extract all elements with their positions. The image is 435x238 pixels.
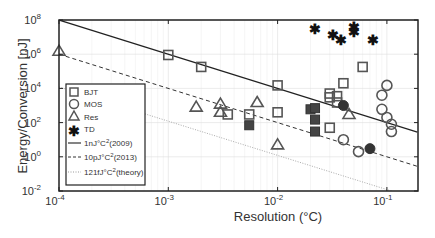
bjt-point bbox=[311, 127, 320, 136]
bjt-point bbox=[245, 110, 254, 119]
x-tick-label: 10-3 bbox=[155, 193, 175, 207]
x-tick-label: 10-2 bbox=[264, 193, 284, 207]
legend-mos: MOS bbox=[84, 100, 102, 109]
bjt-point bbox=[311, 104, 320, 113]
legend-bjt: BJT bbox=[84, 88, 98, 97]
mos-point bbox=[338, 101, 348, 111]
td-point: ✱ bbox=[309, 21, 321, 37]
y-axis-label: Energy/Conversion [nJ] bbox=[15, 38, 30, 173]
bjt-point bbox=[245, 121, 254, 130]
td-point: ✱ bbox=[367, 32, 379, 48]
legend-td: TD bbox=[84, 125, 95, 134]
legend: BJT MOS Res ✱ TD 1nJ°C2(2009) 10pJ°C2(20… bbox=[66, 84, 145, 185]
legend-2009: 1nJ°C2(2009) bbox=[84, 138, 133, 148]
res-point bbox=[251, 96, 263, 106]
legend-res: Res bbox=[84, 113, 98, 122]
bjt-point bbox=[311, 115, 320, 124]
y-tick-label: 108 bbox=[24, 12, 41, 26]
res-point bbox=[190, 101, 202, 111]
y-tick-label: 10-2 bbox=[22, 183, 42, 197]
chart: ✱✱✱✱✱✱ 10810610410210010-2 10-410-310-21… bbox=[0, 0, 435, 238]
x-axis-label: Resolution (°C) bbox=[234, 209, 322, 224]
mos-point bbox=[365, 144, 375, 154]
asterisk-marker-icon: ✱ bbox=[68, 123, 80, 139]
x-tick-label: 10-1 bbox=[373, 193, 393, 207]
mos-point bbox=[354, 147, 364, 157]
td-point: ✱ bbox=[348, 24, 360, 40]
x-tick-label: 10-4 bbox=[45, 193, 65, 207]
td-point: ✱ bbox=[335, 32, 347, 48]
mos-point bbox=[386, 127, 396, 137]
